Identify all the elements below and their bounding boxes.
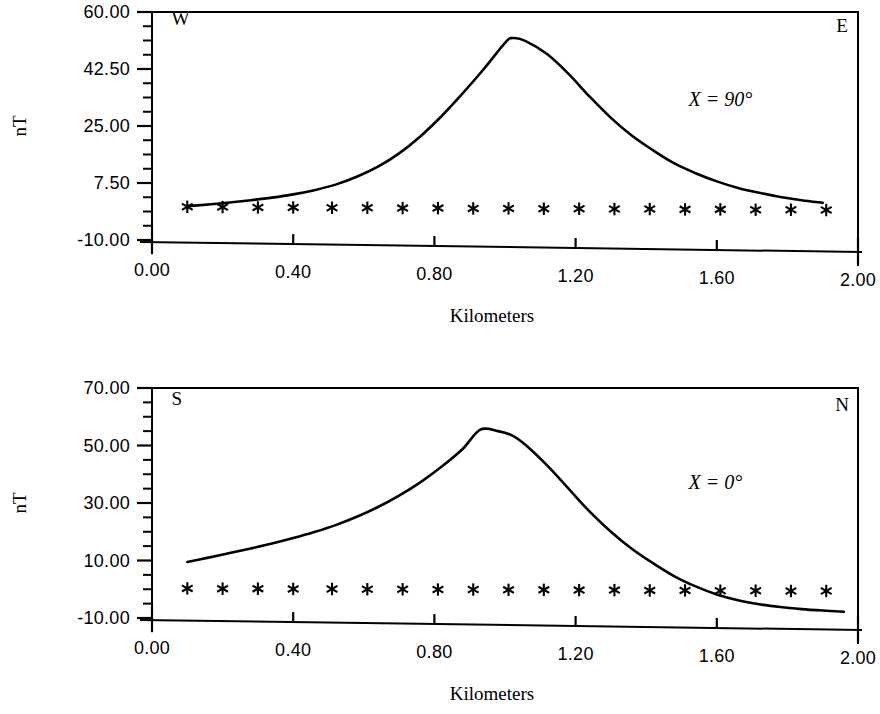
observation-marker [821, 204, 832, 216]
chart-top-plot: 60.0042.5025.007.50-10.000.000.400.801.2… [0, 0, 880, 350]
observation-marker [786, 585, 797, 597]
observation-marker [574, 203, 585, 215]
observation-marker [327, 583, 338, 595]
x-axis-line [140, 242, 862, 252]
y-tick-label: -10.00 [77, 608, 130, 628]
observation-marker [503, 202, 514, 214]
observation-marker [680, 203, 691, 215]
y-tick-label: -10.00 [77, 230, 130, 250]
x-tick-label: 0.00 [134, 260, 170, 280]
y-tick-label: 70.00 [83, 378, 130, 398]
x-tick-label: 0.40 [275, 262, 311, 282]
chart-bottom-plot: 70.0050.0030.0010.00-10.000.000.400.801.… [0, 350, 880, 714]
observation-marker [468, 202, 479, 214]
observation-marker [182, 582, 193, 594]
x-tick-label: 1.60 [699, 268, 735, 288]
observation-marker [715, 203, 726, 215]
x-tick-label: 1.20 [557, 644, 593, 664]
observation-marker [433, 202, 444, 214]
y-axis-ticks [137, 12, 152, 240]
observation-marker [327, 202, 338, 214]
observation-marker [288, 583, 299, 595]
observation-marker [750, 204, 761, 216]
observation-marker [288, 201, 299, 213]
observation-marker [397, 202, 408, 214]
plot-frame [140, 12, 862, 266]
observation-marker [503, 584, 514, 596]
profile-curve [187, 38, 822, 206]
observation-marker [609, 203, 620, 215]
observation-marker [397, 583, 408, 595]
angle-annotation: X = 0° [688, 471, 743, 493]
x-tick-label: 1.60 [699, 646, 735, 666]
observation-marker [362, 583, 373, 595]
x-tick-label: 1.20 [557, 266, 593, 286]
observation-marker [433, 583, 444, 595]
corner-label-left: S [171, 388, 182, 409]
y-tick-label: 30.00 [83, 493, 130, 513]
observation-marker [609, 584, 620, 596]
y-axis-title: nT [9, 115, 30, 137]
plot-frame [140, 388, 862, 644]
marker-series [182, 201, 832, 217]
observation-marker [786, 204, 797, 216]
corner-label-right: E [836, 15, 848, 36]
y-tick-label: 7.50 [94, 173, 130, 193]
observation-marker [253, 582, 264, 594]
corner-label-right: N [835, 394, 849, 415]
observation-marker [538, 584, 549, 596]
x-tick-label: 0.80 [416, 642, 452, 662]
observation-marker [644, 203, 655, 215]
marker-series [182, 582, 832, 597]
x-tick-label: 0.40 [275, 640, 311, 660]
x-tick-label: 0.00 [134, 638, 170, 658]
x-axis-line [140, 620, 862, 630]
y-tick-label: 60.00 [83, 2, 130, 22]
y-tick-label: 10.00 [83, 551, 130, 571]
y-tick-label: 25.00 [83, 116, 130, 136]
observation-marker [468, 583, 479, 595]
observation-marker [644, 584, 655, 596]
angle-annotation: X = 90° [688, 88, 753, 110]
observation-marker [217, 582, 228, 594]
y-tick-label: 42.50 [83, 59, 130, 79]
y-tick-label: 50.00 [83, 436, 130, 456]
observation-marker [253, 201, 264, 213]
observation-marker [680, 584, 691, 596]
x-tick-label: 2.00 [840, 270, 876, 290]
x-axis-title: Kilometers [450, 683, 534, 704]
profile-curve [187, 429, 844, 612]
observation-marker [574, 584, 585, 596]
y-axis-ticks [137, 388, 152, 618]
chart-panel-bottom: 70.0050.0030.0010.00-10.000.000.400.801.… [0, 350, 880, 714]
y-axis-title: nT [9, 492, 30, 514]
corner-label-left: W [171, 8, 189, 29]
observation-marker [821, 585, 832, 597]
observation-marker [362, 202, 373, 214]
chart-panel-top: 60.0042.5025.007.50-10.000.000.400.801.2… [0, 0, 880, 350]
observation-marker [750, 584, 761, 596]
x-axis-title: Kilometers [450, 305, 534, 326]
x-tick-label: 2.00 [840, 648, 876, 668]
x-tick-label: 0.80 [416, 264, 452, 284]
observation-marker [538, 203, 549, 215]
